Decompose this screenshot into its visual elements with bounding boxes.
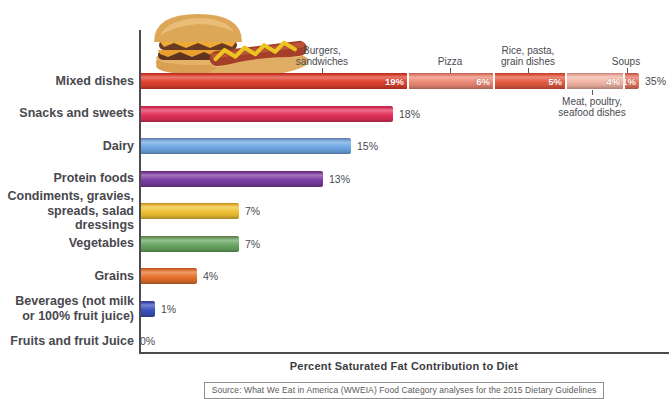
- callout-tick-burgers: [322, 68, 323, 73]
- bar-segment: 5%: [495, 73, 565, 89]
- bar: [141, 236, 239, 252]
- bar: [141, 138, 351, 154]
- bar-value-label: 7%: [245, 238, 260, 250]
- bar-row: Dairy15%: [0, 138, 672, 154]
- bar-segment: 6%: [409, 73, 493, 89]
- source-note: Source: What We Eat in America (WWEIA) F…: [204, 382, 605, 399]
- bar-value-label: 4%: [203, 270, 218, 282]
- bar: [141, 268, 197, 284]
- category-label: Beverages (not milk or 100% fruit juice): [0, 294, 134, 323]
- source-container: Source: What We Eat in America (WWEIA) F…: [139, 379, 669, 399]
- bar: 19%6%5%4%1%: [141, 73, 639, 89]
- bar: [141, 171, 323, 187]
- segment-value-label: 1%: [622, 76, 639, 87]
- category-label: Fruits and fruit Juice: [0, 334, 134, 348]
- bar-segment: 1%: [625, 73, 639, 89]
- category-label: Snacks and sweets: [0, 106, 134, 120]
- category-label: Grains: [0, 269, 134, 283]
- bar: [141, 301, 155, 317]
- bar-value-label: 18%: [399, 108, 420, 120]
- callout-tick-rice: [528, 68, 529, 73]
- callout-soups: Soups: [612, 56, 640, 67]
- bar-value-label: 0%: [140, 335, 155, 347]
- callout-tick-soups: [627, 68, 628, 73]
- category-label: Condiments, gravies, spreads, salad dres…: [0, 189, 134, 232]
- bar-value-label: 35%: [645, 75, 666, 87]
- segment-value-label: 4%: [606, 76, 623, 87]
- bar-value-label: 7%: [245, 205, 260, 217]
- callout-meat-poultry: Meat, poultry, seafood dishes: [558, 96, 625, 118]
- burger-hotdog-image: [146, 2, 314, 78]
- bar-row: Beverages (not milk or 100% fruit juice)…: [0, 301, 672, 317]
- bar-row: Protein foods13%: [0, 171, 672, 187]
- bar: [141, 203, 239, 219]
- segment-value-label: 19%: [385, 76, 407, 87]
- segment-value-label: 6%: [476, 76, 493, 87]
- bar-row: Mixed dishes19%6%5%4%1%35%: [0, 73, 672, 89]
- bar-value-label: 13%: [329, 173, 350, 185]
- x-axis-title: Percent Saturated Fat Contribution to Di…: [139, 360, 669, 372]
- bar-row: Grains4%: [0, 268, 672, 284]
- callout-burgers-sandwiches: Burgers, sandwiches: [296, 45, 348, 67]
- category-label: Dairy: [0, 139, 134, 153]
- bar-row: Vegetables7%: [0, 236, 672, 252]
- category-label: Protein foods: [0, 171, 134, 185]
- callout-tick-pizza: [450, 68, 451, 73]
- bar-value-label: 15%: [357, 140, 378, 152]
- segment-value-label: 5%: [548, 76, 565, 87]
- saturated-fat-bar-chart: Mixed dishes19%6%5%4%1%35%Snacks and swe…: [0, 0, 672, 399]
- bar-row: Condiments, gravies, spreads, salad dres…: [0, 203, 672, 219]
- bar-row: Fruits and fruit Juice0%: [0, 333, 672, 349]
- bar: [141, 106, 393, 122]
- category-label: Vegetables: [0, 236, 134, 250]
- bar-segment: 4%: [567, 73, 623, 89]
- bar-segment: 19%: [141, 73, 407, 89]
- category-label: Mixed dishes: [0, 74, 134, 88]
- callout-pizza: Pizza: [438, 56, 462, 67]
- x-axis-line: [139, 352, 669, 354]
- bar-value-label: 1%: [161, 303, 176, 315]
- callout-rice-pasta: Rice, pasta, grain dishes: [501, 45, 555, 67]
- callout-tick-meat: [592, 90, 593, 95]
